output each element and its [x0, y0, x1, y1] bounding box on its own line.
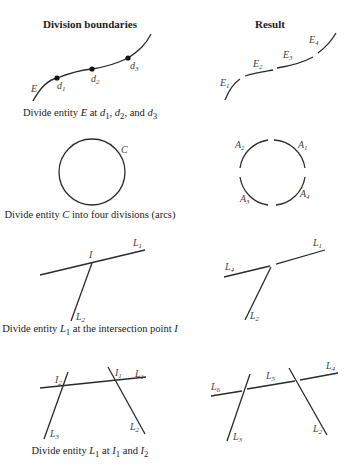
label-i: I [88, 249, 93, 260]
label-a4: A4 [299, 188, 310, 201]
label-l1-r3: L1 [312, 237, 322, 250]
label-a2: A2 [234, 139, 245, 152]
label-e2: E2 [252, 58, 263, 71]
label-l4-r3: L4 [224, 261, 235, 274]
diagram-canvas: E d1 d2 d3 E1 E2 E3 E4 C A1 A2 A3 A4 I L… [0, 0, 358, 471]
line-l1-result [276, 250, 325, 264]
label-i2: I2 [54, 374, 62, 387]
label-l3-r4: L3 [49, 428, 60, 441]
line-l4-row4 [300, 373, 338, 380]
label-d1: d1 [57, 80, 66, 93]
caption-row4: Divide entity L1 at I1 and I2 [0, 445, 180, 459]
label-l2-r3: L2 [249, 310, 260, 323]
label-a1: A1 [297, 139, 308, 152]
label-i1: I1 [114, 367, 122, 380]
circle-c [59, 139, 125, 205]
label-e1: E1 [219, 77, 230, 90]
label-d3: d3 [130, 60, 139, 73]
caption-row1: Divide entity E at d1, d2, and d3 [0, 107, 180, 121]
caption-row2: Divide entity C into four divisions (arc… [0, 209, 180, 220]
label-d2: d2 [91, 73, 100, 86]
curve-e4 [318, 33, 336, 53]
line-l2-result [245, 267, 271, 320]
label-l3-r4-result: L3 [232, 431, 243, 444]
point-d2 [89, 66, 94, 71]
label-l5: L5 [265, 370, 276, 383]
label-e: E [30, 83, 37, 94]
label-c: C [121, 144, 128, 155]
label-l1: L1 [132, 237, 142, 250]
label-l1-r4: L1 [134, 368, 144, 381]
label-l4-r4: L4 [325, 360, 336, 373]
label-l6: L6 [210, 381, 221, 394]
caption-row3: Divide entity L1 at the intersection poi… [0, 323, 180, 337]
label-e4: E4 [308, 34, 319, 47]
label-l2-r4: L2 [129, 421, 140, 434]
label-e3: E3 [282, 49, 293, 62]
line-l1 [40, 250, 145, 275]
